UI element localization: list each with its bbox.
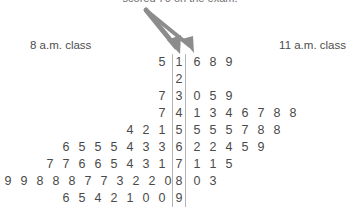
left-leaves: 421 [0, 122, 172, 139]
table-row: 2 [0, 71, 360, 88]
arrow-down-right-icon-2 [147, 11, 194, 53]
stem-cell: 9 [172, 190, 186, 207]
left-leaves: 7 [0, 88, 172, 105]
left-leaves: 6555433 [0, 139, 172, 156]
left-leaves: 7 [0, 105, 172, 122]
right-leaves: 115 [186, 156, 360, 173]
stem-cell: 2 [172, 71, 186, 88]
right-leaves: 689 [186, 54, 360, 71]
table-row: 7 4 1346788 [0, 105, 360, 122]
right-leaves: 1346788 [186, 105, 360, 122]
stem-cell: 3 [172, 88, 186, 105]
left-leaves: 6542100 [0, 190, 172, 207]
caption-text: scored 70 on the exam. [0, 0, 360, 5]
annotation-arrows [140, 6, 220, 58]
table-row: 77665431 7 115 [0, 156, 360, 173]
stem-cell: 8 [172, 173, 186, 190]
stem-cell: 7 [172, 156, 186, 173]
right-leaves: 059 [186, 88, 360, 105]
table-row: 99888773220 8 03 [0, 173, 360, 190]
table-row: 6542100 9 [0, 190, 360, 207]
left-leaves: 5 [0, 54, 172, 71]
caption-clip: scored 70 on the exam. [0, 0, 360, 5]
table-row: 5 1 689 [0, 54, 360, 71]
table-row: 6555433 6 22459 [0, 139, 360, 156]
left-class-label: 8 a.m. class [30, 38, 91, 52]
stem-cell: 1 [172, 54, 186, 71]
right-leaves: 03 [186, 173, 360, 190]
table-row: 7 3 059 [0, 88, 360, 105]
right-leaves [186, 190, 360, 207]
table-row: 421 5 555788 [0, 122, 360, 139]
left-leaves [0, 71, 172, 88]
stem-and-leaf-plot: 5 1 689 2 7 3 059 7 4 1346788 421 5 5557… [0, 54, 360, 207]
right-leaves [186, 71, 360, 88]
right-leaves: 555788 [186, 122, 360, 139]
stem-cell: 6 [172, 139, 186, 156]
stem-cell: 4 [172, 105, 186, 122]
left-leaves: 99888773220 [0, 173, 172, 190]
arrow-down-right-icon [146, 10, 181, 54]
right-class-label: 11 a.m. class [279, 38, 346, 52]
left-leaves: 77665431 [0, 156, 172, 173]
stem-cell: 5 [172, 122, 186, 139]
right-leaves: 22459 [186, 139, 360, 156]
